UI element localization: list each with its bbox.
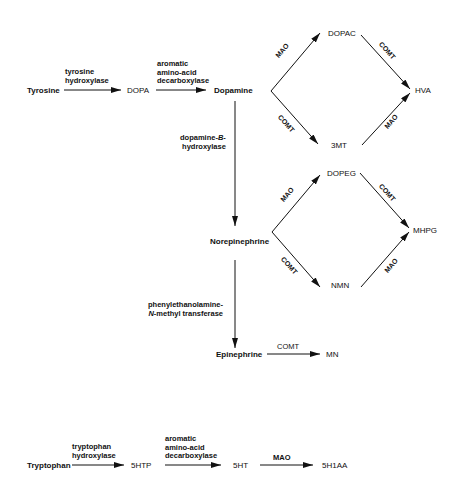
enzyme-aadc-serotonin: aromatic amino-acid decarboxylase xyxy=(165,435,217,461)
enzyme-dopamine-b-hydroxylase: dopamine-B- hydroxylase xyxy=(180,134,226,151)
node-3mt: 3MT xyxy=(331,141,347,150)
node-hva: HVA xyxy=(415,86,431,95)
node-nmn: NMN xyxy=(331,281,349,290)
label-comt-epinephrine-mn: COMT xyxy=(277,343,299,352)
node-epinephrine: Epinephrine xyxy=(216,350,262,359)
node-dopamine: Dopamine xyxy=(214,86,253,95)
arrow-nmn-mhpg xyxy=(361,232,409,287)
arrow-dopamine-dopac xyxy=(271,33,320,91)
arrow-3mt-hva xyxy=(362,93,410,145)
arrow-dopeg-mhpg xyxy=(360,173,409,228)
node-dopa: DOPA xyxy=(127,86,149,95)
node-dopac: DOPAC xyxy=(328,29,356,38)
node-norepinephrine: Norepinephrine xyxy=(210,237,269,246)
node-5htp: 5HTP xyxy=(131,461,151,470)
node-tryptophan: Tryptophan xyxy=(27,461,71,470)
node-dopeg: DOPEG xyxy=(327,169,356,178)
label-mao-5ht-5h1aa: MAO xyxy=(273,454,291,463)
enzyme-pnmt: phenylethanolamine- N-methyl transferase xyxy=(148,301,223,318)
node-5h1aa: 5H1AA xyxy=(322,461,347,470)
node-mn: MN xyxy=(326,350,338,359)
node-5ht: 5HT xyxy=(233,461,248,470)
enzyme-tryptophan-hydroxylase: tryptophan hydroxylase xyxy=(72,443,116,460)
node-tyrosine: Tyrosine xyxy=(27,86,60,95)
enzyme-tyrosine-hydroxylase: tyrosine hydroxylase xyxy=(65,68,109,85)
node-mhpg: MHPG xyxy=(413,226,437,235)
arrow-norepinephrine-dopeg xyxy=(272,175,320,232)
enzyme-aadc: aromatic amino-acid decarboxylase xyxy=(157,60,209,86)
